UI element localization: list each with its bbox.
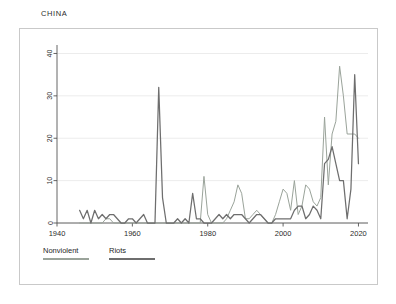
- svg-text:10: 10: [47, 177, 54, 185]
- legend-label-riots: Riots: [109, 246, 155, 258]
- data-series: [80, 66, 359, 223]
- legend-swatch-riots: [109, 258, 155, 260]
- legend-label-nonviolent: Nonviolent: [43, 246, 89, 258]
- legend-item-nonviolent[interactable]: Nonviolent: [43, 246, 89, 260]
- svg-text:20: 20: [47, 134, 54, 142]
- svg-text:1960: 1960: [124, 229, 141, 238]
- svg-text:1940: 1940: [49, 229, 66, 238]
- svg-text:40: 40: [47, 49, 54, 57]
- legend-swatch-nonviolent: [43, 258, 89, 260]
- y-tick-labels: 010203040: [47, 49, 54, 224]
- chart-figure: CHINA 010203040 19401960198020002020 Non…: [0, 0, 396, 304]
- chart-legend: Nonviolent Riots: [19, 244, 378, 274]
- svg-text:2000: 2000: [275, 229, 292, 238]
- x-tick-labels: 19401960198020002020: [49, 229, 367, 238]
- svg-text:1980: 1980: [199, 229, 216, 238]
- svg-text:30: 30: [47, 92, 54, 100]
- legend-item-riots[interactable]: Riots: [109, 246, 155, 260]
- svg-text:2020: 2020: [350, 229, 367, 238]
- svg-text:0: 0: [47, 221, 54, 225]
- axes: [54, 45, 369, 227]
